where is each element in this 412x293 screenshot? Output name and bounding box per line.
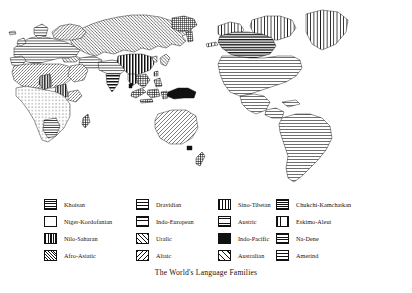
region-australian-australia — [155, 110, 198, 144]
legend-item-niger-kordofanian[interactable]: Niger-Kordofanian — [44, 213, 136, 230]
legend-label-na-dene: Na-Dene — [296, 235, 319, 243]
region-indo-pacific-andaman — [129, 83, 132, 88]
region-austric-java — [140, 99, 153, 103]
legend-item-khoisan[interactable]: Khoisan — [44, 196, 136, 213]
legend-item-afro-asiatic[interactable]: Afro-Asiatic — [44, 247, 136, 264]
legend-label-indo-pacific: Indo-Pacific — [238, 235, 269, 243]
legend-label-altaic: Altaic — [156, 252, 171, 260]
legend-item-chukchi-kamchatkan[interactable]: Chukchi-Kamchatkan — [276, 196, 412, 213]
swatch-altaic-icon — [136, 250, 149, 261]
legend-label-austric: Austric — [238, 218, 257, 226]
legend-label-niger-kordofanian: Niger-Kordofanian — [64, 218, 112, 226]
region-afro-asiatic-arabia — [68, 64, 88, 82]
world-map — [0, 0, 412, 192]
legend-column-1: Khoisan Niger-Kordofanian Nilo-Saharan A… — [44, 196, 136, 264]
swatch-na-dene-icon — [276, 233, 289, 244]
legend-label-australian: Australian — [238, 252, 264, 260]
legend-label-chukchi-kamchatkan: Chukchi-Kamchatkan — [296, 201, 351, 209]
legend-item-dravidian[interactable]: Dravidian — [136, 196, 228, 213]
legend-column-4: Chukchi-Kamchatkan Eskimo-Aleut Na-Dene … — [276, 196, 412, 264]
region-indo-pacific-newguinea — [167, 88, 196, 99]
swatch-indo-european-icon — [136, 216, 149, 227]
region-na-dene-northwest — [218, 32, 276, 58]
swatch-sino-tibetan-icon — [218, 199, 231, 210]
region-altaic-japan — [160, 54, 170, 66]
swatch-amerind-icon — [276, 250, 289, 261]
region-amerind-caribbean — [282, 100, 300, 107]
region-amerind-south-america — [279, 114, 332, 182]
legend-item-uralic[interactable]: Uralic — [136, 230, 228, 247]
swatch-khoisan-icon — [44, 199, 57, 210]
region-austric-sulawesi — [161, 91, 168, 99]
region-austric-indochina — [136, 74, 150, 88]
region-sino-tibetan-china — [117, 54, 154, 76]
region-eskimo-aleut-greenland — [306, 10, 348, 50]
region-chukchi-kamchatka-pen — [186, 31, 193, 42]
legend-item-amerind[interactable]: Amerind — [276, 247, 412, 264]
swatch-chukchi-kamchatkan-icon — [276, 199, 289, 210]
legend-label-indo-european: Indo-European — [156, 218, 194, 226]
region-indo-pacific-tasmania — [187, 146, 192, 150]
legend-label-khoisan: Khoisan — [64, 201, 85, 209]
swatch-afro-asiatic-icon — [44, 250, 57, 261]
legend-item-eskimo-aleut[interactable]: Eskimo-Aleut — [276, 213, 412, 230]
region-afro-asiatic-horn — [68, 90, 82, 102]
legend-item-indo-european[interactable]: Indo-European — [136, 213, 228, 230]
legend-label-amerind: Amerind — [296, 252, 318, 260]
region-amerind-north-america — [218, 56, 302, 96]
legend-label-nilo-saharan: Nilo-Saharan — [64, 235, 98, 243]
region-eskimo-aleut-aleutians — [206, 42, 218, 47]
swatch-niger-kordofanian-icon — [44, 216, 57, 227]
legend-label-uralic: Uralic — [156, 235, 172, 243]
swatch-uralic-icon — [136, 233, 149, 244]
region-amerind-mexico — [240, 94, 270, 114]
legend-label-sino-tibetan: Sino-Tibetan — [238, 201, 271, 209]
region-austric-borneo — [147, 89, 160, 98]
legend-label-eskimo-aleut: Eskimo-Aleut — [296, 218, 331, 226]
region-chukchi-kamchatkan — [172, 16, 197, 32]
map-legend: Khoisan Niger-Kordofanian Nilo-Saharan A… — [0, 196, 412, 264]
legend-label-dravidian: Dravidian — [156, 201, 181, 209]
region-indo-european-iceland — [9, 31, 16, 35]
region-austric-newzealand — [196, 152, 205, 166]
swatch-australian-icon — [218, 250, 231, 261]
region-dravidian-india — [106, 74, 120, 92]
swatch-dravidian-icon — [136, 199, 149, 210]
legend-item-nilo-saharan[interactable]: Nilo-Saharan — [44, 230, 136, 247]
region-indo-european-scandinavia — [34, 24, 48, 38]
legend-label-afro-asiatic: Afro-Asiatic — [64, 252, 96, 260]
legend-item-altaic[interactable]: Altaic — [136, 247, 228, 264]
swatch-austric-icon — [218, 216, 231, 227]
swatch-eskimo-aleut-icon — [276, 216, 289, 227]
region-austric-sumatra — [131, 88, 146, 98]
world-map-svg — [0, 0, 412, 192]
region-amerind-centralamerica — [265, 108, 284, 118]
swatch-indo-pacific-icon — [218, 233, 231, 244]
swatch-nilo-saharan-icon — [44, 233, 57, 244]
figure-caption: The World's Language Families — [0, 268, 412, 277]
legend-item-na-dene[interactable]: Na-Dene — [276, 230, 412, 247]
region-austric-taiwan — [154, 71, 158, 76]
legend-column-2: Dravidian Indo-European Uralic Altaic — [136, 196, 228, 264]
region-austric-madagascar — [82, 114, 90, 128]
language-families-figure: Khoisan Niger-Kordofanian Nilo-Saharan A… — [0, 0, 412, 293]
region-austric-philippines — [154, 78, 162, 87]
region-uralic-north — [52, 24, 86, 40]
